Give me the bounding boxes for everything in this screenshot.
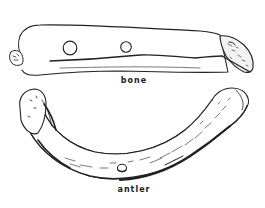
bone-hole-2 <box>121 42 132 53</box>
antler-label: antler <box>117 185 150 194</box>
bone-label: bone <box>121 76 147 85</box>
antler-drawing <box>20 88 249 180</box>
illustration: bone antler <box>0 0 265 208</box>
artifact-drawing <box>0 0 265 208</box>
bone-drawing <box>10 25 254 75</box>
bone-hole-1 <box>63 41 77 55</box>
